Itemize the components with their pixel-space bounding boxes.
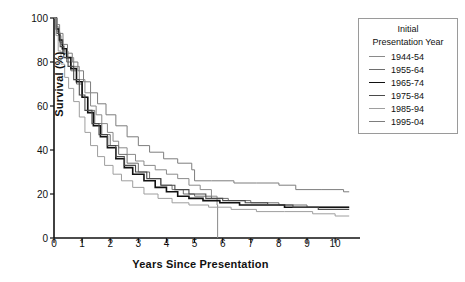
x-tick-label: 9 [295,238,319,249]
x-tick-label: 7 [239,238,263,249]
legend-item-1995-04[interactable]: 1995-04 [359,115,457,128]
legend-item-label: 1965-74 [391,78,424,88]
legend-item-label: 1995-04 [391,117,424,127]
y-tick-label: 100 [18,13,48,24]
x-tick-label: 3 [126,238,150,249]
legend-line-swatch [369,95,385,96]
legend-line-swatch [369,82,385,83]
survival-curve-1955-64 [54,18,349,207]
legend-item-label: 1975-84 [391,91,424,101]
survival-curve-1985-94 [54,18,349,216]
survival-chart: Survival (%) Years Since Presentation 02… [0,0,465,282]
x-tick-label: 8 [267,238,291,249]
x-tick-label: 6 [211,238,235,249]
legend-line-swatch [369,108,385,109]
legend-line-swatch [369,56,385,57]
x-tick-label: 4 [154,238,178,249]
legend-title-line2: Presentation Year [359,37,457,50]
legend-item-1985-94[interactable]: 1985-94 [359,102,457,115]
x-axis-tick-labels: 012345678910 [0,238,465,254]
x-axis-title: Years Since Presentation [48,258,353,270]
y-tick-label: 40 [18,145,48,156]
legend-item-label: 1955-64 [391,65,424,75]
x-tick-label: 1 [70,238,94,249]
legend-item-1955-64[interactable]: 1955-64 [359,63,457,76]
y-axis-title: Survival (%) [53,24,65,144]
legend-title-line1: Initial [359,23,457,37]
legend: Initial Presentation Year 1944-541955-64… [358,18,458,134]
legend-item-1944-54[interactable]: 1944-54 [359,50,457,63]
legend-item-1975-84[interactable]: 1975-84 [359,89,457,102]
x-tick-label: 10 [323,238,347,249]
x-tick-label: 5 [183,238,207,249]
legend-item-label: 1985-94 [391,104,424,114]
survival-curve-1965-74 [54,18,349,207]
x-tick-label: 0 [42,238,66,249]
x-tick-label: 2 [98,238,122,249]
y-tick-label: 60 [18,101,48,112]
legend-line-swatch [369,69,385,70]
y-tick-label: 20 [18,189,48,200]
legend-line-swatch [369,121,385,122]
y-tick-label: 80 [18,57,48,68]
legend-item-1965-74[interactable]: 1965-74 [359,76,457,89]
survival-curve-1995-04 [54,18,349,192]
legend-item-label: 1944-54 [391,52,424,62]
